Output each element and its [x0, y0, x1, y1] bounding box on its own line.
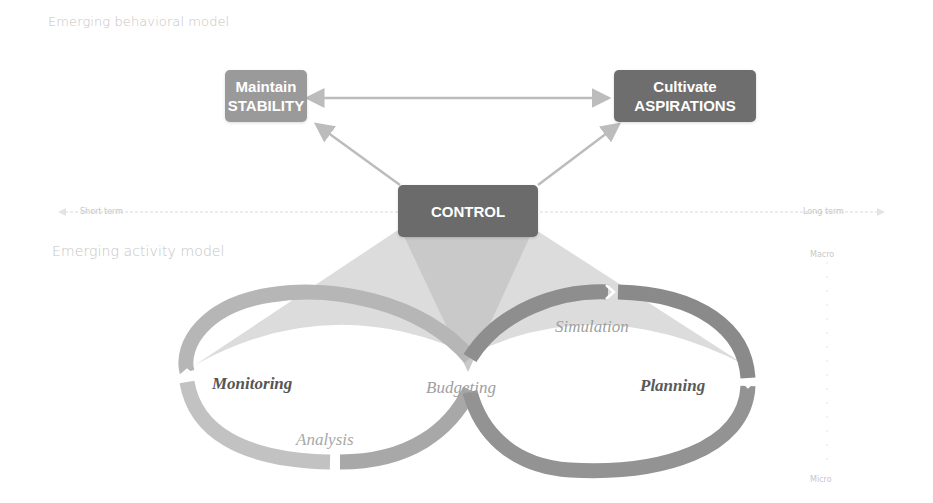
control-to-stability-arrow — [320, 127, 400, 185]
stability-box: Maintain STABILITY — [225, 70, 307, 122]
left-loop-lower-right — [340, 390, 470, 462]
left-loop-lower-left — [187, 382, 330, 462]
stability-line1: Maintain — [225, 77, 307, 96]
control-box: CONTROL — [398, 185, 538, 237]
macro-label: Macro — [810, 250, 834, 259]
timeline-left-arrow-icon — [58, 208, 66, 216]
simulation-label: Simulation — [555, 317, 629, 337]
stability-line2: STABILITY — [225, 96, 307, 115]
aspirations-line1: Cultivate — [614, 77, 756, 96]
behavioral-model-title: Emerging behavioral model — [48, 14, 229, 29]
aspirations-box: Cultivate ASPIRATIONS — [614, 70, 756, 122]
budgeting-label: Budgeting — [426, 378, 496, 398]
control-label: CONTROL — [398, 202, 538, 221]
analysis-chevron-icon — [332, 455, 338, 469]
monitoring-label: Monitoring — [212, 374, 292, 394]
long-term-label: Long term — [803, 207, 844, 216]
short-term-label: Short term — [80, 207, 123, 216]
timeline-right-arrow-icon — [877, 208, 885, 216]
analysis-label: Analysis — [296, 430, 354, 450]
micro-label: Micro — [810, 475, 832, 484]
activity-model-title: Emerging activity model — [52, 243, 225, 259]
right-loop-lower — [470, 386, 748, 471]
planning-label: Planning — [640, 376, 705, 396]
control-to-aspirations-arrow — [538, 127, 615, 185]
aspirations-line2: ASPIRATIONS — [614, 96, 756, 115]
